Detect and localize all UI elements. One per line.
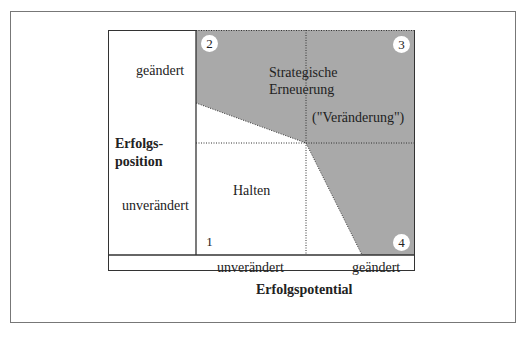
x-axis-title: Erfolgspotential <box>256 282 352 298</box>
x-tick-unchanged: unverändert <box>217 260 284 276</box>
region-hold: Halten <box>233 183 270 199</box>
y-tick-changed: geändert <box>136 63 184 79</box>
y-tick-unchanged: unverändert <box>122 198 189 214</box>
region-strategic-line2: Erneuerung <box>269 82 334 98</box>
quadrant-1-number: 1 <box>201 233 218 250</box>
quadrant-4-number: 4 <box>393 234 410 251</box>
quadrant-2-number: 2 <box>201 35 218 52</box>
y-axis-title-line2: position <box>115 154 162 170</box>
quadrant-3-number: 3 <box>393 36 410 53</box>
region-strategic-line1: Strategische <box>269 65 337 81</box>
y-axis-title-line1: Erfolgs- <box>115 136 163 152</box>
x-tick-changed: geändert <box>352 260 400 276</box>
region-change: ("Veränderung") <box>312 110 404 126</box>
